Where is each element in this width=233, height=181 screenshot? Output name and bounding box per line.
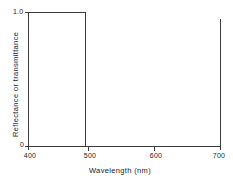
chart-figure: 1.0 0 400 500 600 700 Wavelength (nm) Re…	[0, 0, 233, 181]
data-series-line	[0, 0, 233, 181]
